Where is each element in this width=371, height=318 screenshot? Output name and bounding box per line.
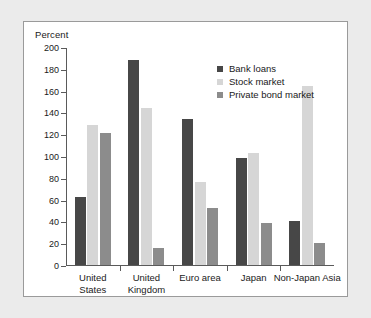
x-tick-mark	[120, 266, 121, 271]
bar	[128, 60, 139, 265]
y-tick-mark	[61, 70, 66, 71]
y-tick-label: 100	[44, 152, 59, 162]
y-tick-mark	[61, 222, 66, 223]
bar	[289, 221, 300, 265]
legend-item: Bank loans	[217, 63, 314, 75]
y-tick-label: 200	[44, 43, 59, 53]
y-tick-mark	[61, 201, 66, 202]
chart-panel: Percent 020406080100120140160180200 Unit…	[23, 21, 348, 297]
legend-item: Stock market	[217, 76, 314, 88]
y-tick-label: 60	[49, 196, 59, 206]
bar	[314, 243, 325, 265]
x-tick-label-line: Euro area	[179, 272, 221, 284]
x-tick-mark	[280, 266, 281, 271]
y-tick-label: 160	[44, 87, 59, 97]
y-tick-mark	[61, 135, 66, 136]
bar	[100, 133, 111, 265]
x-tick-label: Japan	[241, 272, 267, 284]
y-tick-mark	[61, 266, 66, 267]
x-tick-label: Euro area	[179, 272, 221, 284]
x-tick-label-line: United	[79, 272, 106, 284]
legend-swatch-icon	[217, 92, 223, 98]
x-tick-label-line: United	[128, 272, 166, 284]
y-tick-label: 20	[49, 239, 59, 249]
x-tick-mark	[173, 266, 174, 271]
y-axis-line	[66, 48, 67, 266]
bar	[302, 86, 313, 265]
bar	[75, 197, 86, 265]
legend-swatch-icon	[217, 66, 223, 72]
bar	[207, 208, 218, 265]
bar	[248, 153, 259, 265]
x-tick-label-line: Japan	[241, 272, 267, 284]
x-axis-line	[66, 265, 334, 266]
bar	[141, 108, 152, 265]
y-tick-label: 40	[49, 217, 59, 227]
bar	[87, 125, 98, 265]
x-tick-label: UnitedStates	[79, 272, 106, 295]
y-tick-label: 180	[44, 65, 59, 75]
y-tick-mark	[61, 244, 66, 245]
bar	[182, 119, 193, 265]
bar	[195, 182, 206, 265]
y-tick-mark	[61, 179, 66, 180]
bar	[153, 248, 164, 265]
chart-screenshot: Percent 020406080100120140160180200 Unit…	[0, 0, 371, 318]
x-tick-label: UnitedKingdom	[128, 272, 166, 295]
x-tick-label-line: Non-Japan Asia	[274, 272, 341, 284]
bar	[236, 158, 247, 265]
x-tick-label-line: Kingdom	[128, 284, 166, 296]
legend-swatch-icon	[217, 79, 223, 85]
x-tick-mark	[227, 266, 228, 271]
legend-label: Bank loans	[229, 63, 276, 74]
y-tick-mark	[61, 92, 66, 93]
legend-label: Stock market	[229, 76, 284, 87]
legend-label: Private bond market	[229, 89, 314, 100]
y-tick-mark	[61, 113, 66, 114]
legend-item: Private bond market	[217, 89, 314, 101]
y-tick-label: 0	[54, 261, 59, 271]
chart-legend: Bank loansStock marketPrivate bond marke…	[217, 63, 314, 102]
y-tick-label: 80	[49, 174, 59, 184]
bar	[261, 223, 272, 265]
y-tick-label: 140	[44, 108, 59, 118]
y-tick-mark	[61, 48, 66, 49]
y-tick-label: 120	[44, 130, 59, 140]
x-tick-label-line: States	[79, 284, 106, 296]
y-tick-mark	[61, 157, 66, 158]
y-axis-title: Percent	[35, 29, 68, 40]
x-tick-label: Non-Japan Asia	[274, 272, 341, 284]
